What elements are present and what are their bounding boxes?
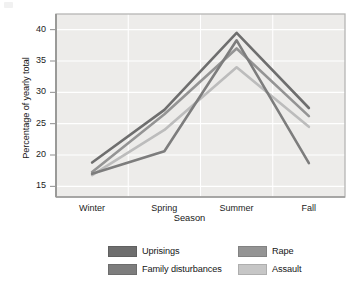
- y-tick-label: 20: [24, 149, 46, 159]
- legend-swatch-icon: [108, 246, 137, 257]
- legend-item-label: Uprisings: [142, 246, 179, 256]
- legend-swatch-icon: [238, 246, 267, 257]
- x-tick-label-winter: Winter: [62, 203, 122, 213]
- legend-item[interactable]: Assault: [238, 261, 358, 277]
- legend-item[interactable]: Family disturbances: [108, 261, 238, 277]
- legend-item-label: Family disturbances: [142, 264, 222, 274]
- x-axis-title: Season: [0, 213, 363, 223]
- legend-item-label: Assault: [272, 264, 301, 274]
- x-axis-title-text: Season: [174, 213, 206, 223]
- x-tick-label-summer: Summer: [207, 203, 267, 213]
- legend-item[interactable]: Uprisings: [108, 243, 238, 259]
- y-tick-label: 30: [24, 86, 46, 96]
- chart-legend: UprisingsRapeFamily disturbancesAssault: [108, 243, 358, 277]
- x-tick-label-fall: Fall: [279, 203, 339, 213]
- seasonal-crime-line-chart: Percentage of yearly total 152025303540 …: [0, 0, 363, 285]
- legend-swatch-icon: [238, 264, 267, 275]
- legend-item-label: Rape: [272, 246, 294, 256]
- legend-swatch-icon: [108, 264, 137, 275]
- x-tick-label-spring: Spring: [134, 203, 194, 213]
- y-tick-label: 25: [24, 118, 46, 128]
- legend-item[interactable]: Rape: [238, 243, 358, 259]
- y-tick-label: 35: [24, 55, 46, 65]
- y-tick-label: 40: [24, 24, 46, 34]
- y-tick-label: 15: [24, 180, 46, 190]
